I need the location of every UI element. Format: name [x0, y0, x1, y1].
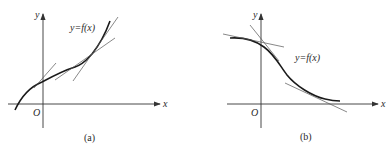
panel-b: y x O y=f(x) (b): [223, 9, 386, 143]
y-axis-label: y: [252, 9, 258, 20]
tangent-line: [285, 83, 347, 112]
x-axis-label: x: [380, 98, 386, 109]
origin-label: O: [251, 107, 258, 118]
tangent-line: [55, 38, 115, 80]
panel-a: y x O y=f(x) (a): [8, 9, 168, 144]
x-axis-label: x: [162, 98, 168, 109]
function-curve: [15, 21, 110, 110]
function-curve: [230, 38, 340, 101]
function-label: y=f(x): [69, 22, 96, 34]
function-label: y=f(x): [294, 52, 321, 64]
tangent-line: [34, 63, 56, 88]
panel-caption: (a): [84, 132, 95, 144]
panel-caption: (b): [300, 131, 312, 143]
tangent-line: [223, 34, 284, 47]
tangent-lines-figure: y x O y=f(x) (a) y x O y=f(x) (b): [0, 0, 390, 159]
y-axis-label: y: [34, 9, 40, 20]
tangent-line: [250, 25, 279, 61]
origin-label: O: [33, 107, 40, 118]
